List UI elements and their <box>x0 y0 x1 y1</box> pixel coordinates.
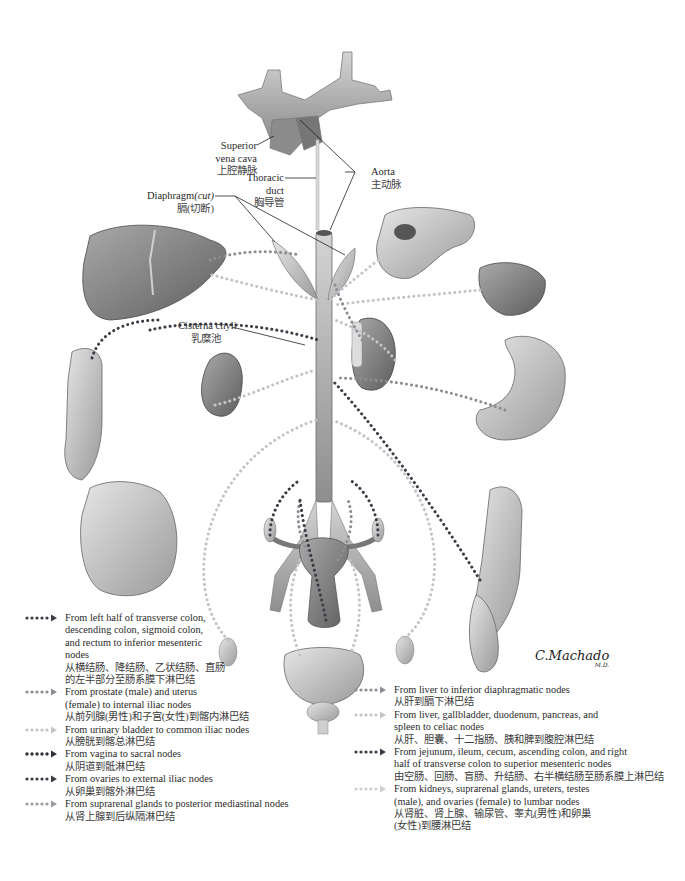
thoracic-zh: 胸导管 <box>240 197 284 210</box>
legend-zh: 从阴道到骶淋巴结 <box>65 761 324 773</box>
stomach <box>476 336 565 440</box>
light-dotted-arrow-icon <box>353 710 391 720</box>
legend-en: From jejunum, ileum, cecum, ascending co… <box>394 746 673 771</box>
great-vessels <box>238 52 392 155</box>
legend-zh: 从肝到膈下淋巴结 <box>394 696 673 708</box>
light-dotted-arrow-icon <box>353 784 391 794</box>
legend-en: From kidneys, suprarenal glands, ureters… <box>394 783 673 808</box>
thoracic-duct <box>316 140 319 230</box>
legend-zh: 从横结肠、降结肠、乙状结肠、直肠 的左半部分至肠系膜下淋巴结 <box>65 662 324 687</box>
legend-item-lumbar: From kidneys, suprarenal glands, ureters… <box>353 783 673 833</box>
svc-en-1: Superior <box>221 140 257 151</box>
legend-right: From liver to inferior diaphragmatic nod… <box>353 684 673 833</box>
duodenum-pancreas <box>377 208 475 279</box>
thoracic-en-1: Thoracic <box>247 172 284 183</box>
legend-zh: 从肝、胆囊、十二指肠、胰和脾到腹腔淋巴结 <box>394 734 673 746</box>
light-flow-lines <box>204 260 480 655</box>
cisterna-zh: 乳糜池 <box>178 333 234 346</box>
legend-en: From liver, gallbladder, duodenum, pancr… <box>394 709 673 734</box>
kidney-left <box>202 353 243 416</box>
legend-en: From suprarenal glands to posterior medi… <box>65 798 324 810</box>
legend-item-posterior-mediastinal: From suprarenal glands to posterior medi… <box>24 798 324 823</box>
medium-dotted-arrow-icon <box>24 687 62 697</box>
diaphragm-zh: 膈(切断) <box>140 203 214 216</box>
light-dotted-arrow-icon <box>24 725 62 735</box>
medium-flow-lines <box>210 252 505 560</box>
label-diaphragm: Diaphragm(cut) 膈(切断) <box>140 190 214 215</box>
dark-dotted-arrow-icon <box>24 774 62 784</box>
legend-zh: 从膀胱到髂总淋巴结 <box>65 736 324 748</box>
cisterna-en: Cisterna chyli <box>178 320 237 331</box>
dark-dotted-arrow-icon <box>24 613 62 623</box>
legend-item-inferior-mesenteric: From left half of transverse colon, desc… <box>24 612 324 686</box>
diaphragm-cut: (cut) <box>194 190 214 201</box>
legend-left: From left half of transverse colon, desc… <box>24 612 324 823</box>
aorta <box>316 232 332 502</box>
small-intestine <box>81 482 177 596</box>
legend-item-common-iliac: From urinary bladder to common iliac nod… <box>24 724 324 749</box>
spleen <box>479 263 545 316</box>
legend-zh: 从肾上腺到后纵隔淋巴结 <box>65 811 324 823</box>
testis-right <box>396 636 414 664</box>
label-cisterna-chyli: Cisterna chyli 乳糜池 <box>178 320 234 345</box>
diaphragm-left <box>272 240 318 300</box>
artist-signature: C.Machado M.D. <box>535 648 609 668</box>
label-aorta: Aorta 主动脉 <box>371 166 401 191</box>
legend-item-sacral: From vagina to sacral nodes 从阴道到骶淋巴结 <box>24 748 324 773</box>
label-thoracic-duct: Thoracic duct 胸导管 <box>240 172 284 210</box>
thoracic-en-2: duct <box>266 185 284 196</box>
legend-en: From ovaries to external iliac nodes <box>65 773 324 785</box>
legend-item-external-iliac: From ovaries to external iliac nodes 从卵巢… <box>24 773 324 798</box>
aorta-zh: 主动脉 <box>371 179 401 192</box>
svc-en-2: vena cava <box>215 153 257 164</box>
legend-item-celiac: From liver, gallbladder, duodenum, pancr… <box>353 709 673 746</box>
dark-dotted-arrow-icon <box>24 749 62 759</box>
legend-item-internal-iliac: From prostate (male) and uterus (female)… <box>24 686 324 723</box>
medium-dotted-arrow-icon <box>353 685 391 695</box>
legend-zh: 从卵巢到髂外淋巴结 <box>65 786 324 798</box>
legend-zh: 从前列腺(男性)和子宫(女性)到髂内淋巴结 <box>65 711 324 723</box>
legend-en: From vagina to sacral nodes <box>65 748 324 760</box>
legend-zh: 从肾脏、肾上腺、输尿管、睾丸(男性)和卵巢 (女性)到腰淋巴结 <box>394 808 673 833</box>
legend-en: From prostate (male) and uterus (female)… <box>65 686 324 711</box>
aorta-en: Aorta <box>371 166 395 177</box>
legend-item-inferior-diaphragmatic: From liver to inferior diaphragmatic nod… <box>353 684 673 709</box>
legend-zh: 由空肠、回肠、盲肠、升结肠、右半横结肠至肠系膜上淋巴结 <box>394 771 673 783</box>
ascending-colon <box>65 348 102 480</box>
diaphragm-en: Diaphragm <box>147 190 194 201</box>
dark-dotted-arrow-icon <box>353 747 391 757</box>
medium-dotted-arrow-icon <box>24 799 62 809</box>
legend-item-superior-mesenteric: From jejunum, ileum, cecum, ascending co… <box>353 746 673 783</box>
legend-en: From urinary bladder to common iliac nod… <box>65 724 324 736</box>
legend-en: From left half of transverse colon, desc… <box>65 612 324 662</box>
legend-en: From liver to inferior diaphragmatic nod… <box>394 684 673 696</box>
